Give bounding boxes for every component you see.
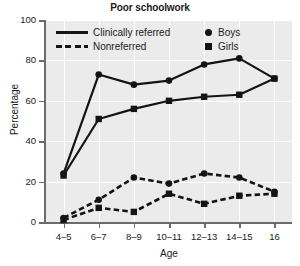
gridline-horizontal <box>46 101 292 102</box>
y-axis-line <box>44 20 46 223</box>
x-tick-mark <box>134 223 136 228</box>
legend-item-girls: Girls <box>193 40 239 53</box>
gridline-horizontal <box>46 182 292 183</box>
gridline-vertical <box>274 20 275 222</box>
y-tick-mark <box>39 101 44 103</box>
legend-label: Boys <box>218 28 240 38</box>
dashed-line-icon <box>56 45 88 49</box>
y-tick-label: 20 <box>0 177 36 187</box>
chart-figure: Poor schoolwork 020406080100 4–56–78–910… <box>0 0 300 266</box>
x-tick-mark <box>64 223 66 228</box>
solid-line-icon <box>56 31 88 34</box>
gridline-horizontal <box>46 20 292 21</box>
y-tick-mark <box>39 222 44 224</box>
legend-item-nonreferred: Nonreferred <box>56 40 146 53</box>
legend-label: Nonreferred <box>93 42 146 52</box>
y-tick-label: 80 <box>0 55 36 65</box>
gridline-horizontal <box>46 141 292 142</box>
y-tick-mark <box>39 60 44 62</box>
x-axis-line <box>44 222 292 224</box>
square-marker-icon <box>205 43 212 50</box>
x-tick-mark <box>204 223 206 228</box>
x-tick-mark <box>239 223 241 228</box>
circle-marker-icon <box>205 29 212 36</box>
chart-title: Poor schoolwork <box>0 2 300 13</box>
y-tick-mark <box>39 20 44 22</box>
x-axis-label: Age <box>46 248 292 259</box>
gridline-horizontal <box>46 60 292 61</box>
x-tick-mark <box>99 223 101 228</box>
y-tick-mark <box>39 141 44 143</box>
legend-label: Clinically referred <box>93 28 170 38</box>
legend-item-boys: Boys <box>193 26 240 39</box>
legend-item-clinically-referred: Clinically referred <box>56 26 170 39</box>
x-tick-label: 16 <box>252 232 296 242</box>
y-tick-label: 0 <box>0 217 36 227</box>
x-tick-mark <box>274 223 276 228</box>
chart-legend: Clinically referred Nonreferred Boys Gir… <box>56 26 271 58</box>
y-axis-label: Percentage <box>9 65 20 155</box>
legend-label: Girls <box>218 42 239 52</box>
y-tick-mark <box>39 182 44 184</box>
x-tick-mark <box>169 223 171 228</box>
y-tick-label: 100 <box>0 15 36 25</box>
